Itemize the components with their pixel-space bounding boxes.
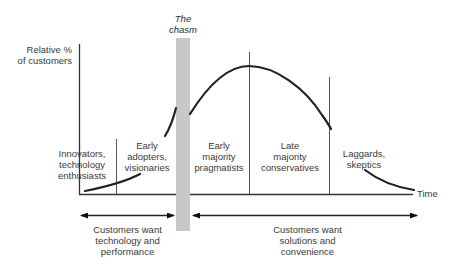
adoption-lifecycle-diagram: The chasm Relative % of customers Time I… bbox=[0, 0, 457, 269]
segment-label-early-majority: Early majority pragmatists bbox=[190, 140, 248, 173]
segment-label-late-majority: Late majority conservatives bbox=[252, 140, 328, 173]
segment-label-laggards: Laggards, skeptics bbox=[331, 148, 397, 170]
adoption-curve-tail bbox=[365, 170, 414, 190]
bottom-label-solutions: Customers want solutions and convenience bbox=[260, 224, 355, 257]
chasm-label: The chasm bbox=[163, 13, 203, 35]
segment-label-early-adopters: Early adopters, visionaries bbox=[119, 140, 175, 173]
diagram-graphics bbox=[0, 0, 457, 269]
adoption-curve-main bbox=[190, 66, 331, 129]
y-axis-label: Relative % of customers bbox=[8, 44, 72, 66]
bottom-label-technology: Customers want technology and performanc… bbox=[80, 224, 175, 257]
x-axis-label: Time bbox=[417, 188, 453, 199]
segment-label-innovators: Innovators, technology enthusiasts bbox=[52, 148, 112, 181]
chasm-band bbox=[176, 38, 190, 231]
adoption-curve-early-adopters bbox=[165, 108, 176, 136]
